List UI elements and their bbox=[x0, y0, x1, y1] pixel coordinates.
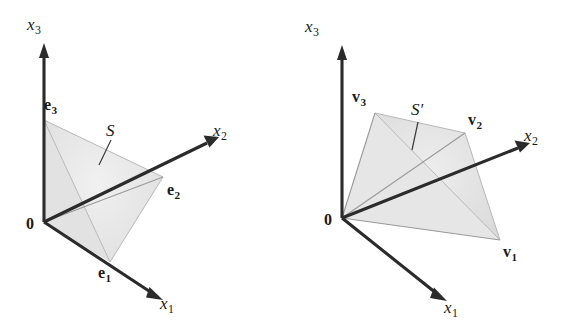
figure-root: x3 x2 x1 e3 e2 e1 0 S x3 x2 x1 v3 v2 v1 … bbox=[0, 0, 565, 333]
diagram-canvas bbox=[0, 0, 565, 333]
right-panel-geometry bbox=[337, 45, 530, 301]
left-tetrahedron-faces bbox=[44, 120, 163, 262]
left-vertex-label-e2: e2 bbox=[167, 182, 180, 201]
left-origin-label: 0 bbox=[26, 216, 34, 232]
right-axis-label-x2: x2 bbox=[524, 127, 538, 148]
left-axis-x3-arrowhead bbox=[39, 43, 49, 58]
left-panel-geometry bbox=[39, 43, 219, 300]
right-vertex-label-v2: v2 bbox=[468, 112, 482, 131]
right-origin-label: 0 bbox=[324, 212, 332, 228]
left-axis-label-x3: x3 bbox=[27, 16, 41, 37]
right-axis-x3-arrowhead bbox=[337, 45, 347, 60]
left-vertex-label-e1: e1 bbox=[98, 265, 111, 284]
right-axis-label-x3: x3 bbox=[305, 18, 319, 39]
left-vertex-label-e3: e3 bbox=[44, 97, 57, 116]
right-axis-label-x1: x1 bbox=[444, 299, 458, 320]
left-set-label-s: S bbox=[106, 122, 115, 139]
left-axis-label-x2: x2 bbox=[213, 122, 227, 143]
right-set-label-s-prime: S′ bbox=[411, 101, 423, 118]
right-vertex-label-v3: v3 bbox=[352, 89, 366, 108]
right-vertex-label-v1: v1 bbox=[503, 244, 517, 263]
left-axis-label-x1: x1 bbox=[160, 295, 174, 316]
